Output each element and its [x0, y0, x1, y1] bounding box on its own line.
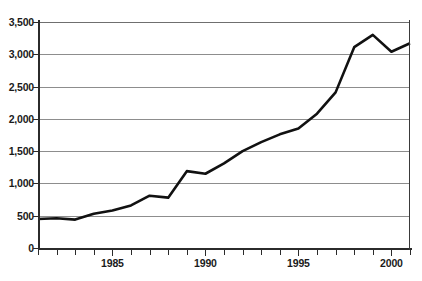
x-axis-tick-1986: [131, 250, 132, 255]
x-axis-tick-1998: [354, 250, 355, 255]
x-axis-tick-1988: [168, 250, 169, 255]
x-axis-tick-1992: [243, 250, 244, 255]
x-axis-ticks: [38, 250, 410, 256]
x-axis-tick-1994: [280, 250, 281, 255]
x-axis-tick-1995: [298, 250, 299, 256]
x-axis-tick-1997: [336, 250, 337, 255]
series-line-1: [38, 35, 410, 220]
x-axis-tick-1982: [57, 250, 58, 255]
x-axis-tick-1987: [150, 250, 151, 255]
x-axis-tick-1999: [373, 250, 374, 255]
x-axis-tick-1993: [261, 250, 262, 255]
series-layer: [38, 22, 410, 248]
y-axis-line: [38, 20, 40, 250]
x-axis-tick-2000: [391, 250, 392, 256]
x-axis-label-1990: 1990: [194, 258, 217, 269]
x-axis-tick-1984: [94, 250, 95, 255]
x-axis-labels: 1985199019952000: [38, 258, 410, 274]
x-axis-tick-1989: [187, 250, 188, 255]
x-axis-tick-1983: [75, 250, 76, 255]
x-axis-tick-1996: [317, 250, 318, 255]
x-axis-label-1985: 1985: [101, 258, 124, 269]
x-axis-label-2000: 2000: [380, 258, 403, 269]
x-axis-tick-1990: [205, 250, 206, 256]
y-axis-ticks: [0, 22, 38, 248]
x-axis-tick-2001: [410, 250, 411, 255]
x-axis-tick-1981: [38, 250, 39, 255]
x-axis-tick-1991: [224, 250, 225, 255]
plot-area: [38, 22, 410, 248]
x-axis-label-1995: 1995: [287, 258, 310, 269]
plot-right-border: [409, 20, 410, 250]
line-chart: 05001,0001,5002,0002,5003,0003,500 19851…: [0, 0, 422, 281]
x-axis-tick-1985: [112, 250, 113, 256]
